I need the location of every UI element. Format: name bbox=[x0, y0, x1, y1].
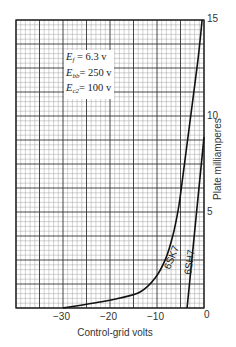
y-tick-15: 15 bbox=[207, 13, 218, 24]
conditions-box: Ef = 6.3 v Ebb= 250 v Ec2= 100 v bbox=[64, 50, 114, 99]
chart-canvas: 6SK7 6SH7 bbox=[0, 0, 236, 347]
value: = 250 v bbox=[79, 67, 111, 78]
value: = 100 v bbox=[79, 82, 111, 93]
x-tick-m10: −10 bbox=[147, 311, 164, 322]
condition-ec2: Ec2= 100 v bbox=[66, 82, 112, 98]
condition-ebb: Ebb= 250 v bbox=[66, 67, 112, 83]
x-tick-m30: −30 bbox=[53, 311, 70, 322]
curve-label-6sk7: 6SK7 bbox=[162, 244, 182, 271]
x-axis-label: Control-grid volts bbox=[40, 327, 190, 338]
x-tick-0: 0 bbox=[204, 309, 210, 320]
condition-ef: Ef = 6.3 v bbox=[66, 51, 112, 67]
y-axis-label: Plate milliamperes bbox=[212, 118, 223, 200]
y-tick-5: 5 bbox=[207, 206, 213, 217]
curve-label-6sh7: 6SH7 bbox=[182, 249, 196, 276]
curve-6sh7 bbox=[187, 137, 204, 308]
value: = 6.3 v bbox=[74, 51, 106, 62]
x-tick-m20: −20 bbox=[100, 311, 117, 322]
